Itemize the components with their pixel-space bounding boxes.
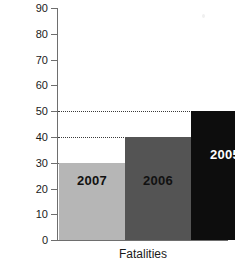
- bar-label-2005: 2005: [191, 147, 235, 162]
- y-tick-label-40: 40: [0, 132, 48, 143]
- y-tick-label-50: 50: [0, 106, 48, 117]
- bar-label-2007: 2007: [59, 173, 125, 188]
- plot-area: 2007 2006 2005: [58, 8, 228, 240]
- y-tick-label-60: 60: [0, 80, 48, 91]
- x-axis-line: [57, 240, 228, 241]
- y-tick-label-80: 80: [0, 29, 48, 40]
- bar-chart: 90 80 70 60 50 40 30 20 10 0: [0, 0, 235, 261]
- y-tick-label-70: 70: [0, 55, 48, 66]
- y-tick-label-20: 20: [0, 184, 48, 195]
- x-axis-title: Fatalities: [58, 248, 228, 260]
- bar-2005[interactable]: 2005: [191, 111, 235, 240]
- bar-2007[interactable]: 2007: [59, 163, 125, 240]
- bar-label-2006: 2006: [125, 173, 191, 188]
- y-tick-label-0: 0: [0, 235, 48, 246]
- y-tick-label-10: 10: [0, 209, 48, 220]
- bar-2006[interactable]: 2006: [125, 137, 191, 240]
- y-tick-label-30: 30: [0, 158, 48, 169]
- y-tick-label-90: 90: [0, 3, 48, 14]
